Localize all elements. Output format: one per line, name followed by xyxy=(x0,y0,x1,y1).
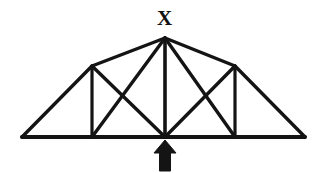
truss-drawing xyxy=(0,0,327,173)
truss-diagram-figure: X xyxy=(0,0,327,173)
